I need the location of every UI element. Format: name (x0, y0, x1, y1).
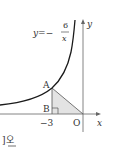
tick-minus-3: −3 (40, 118, 54, 128)
x-axis-arrow-icon (96, 112, 101, 116)
x-axis-label: x (97, 118, 102, 128)
point-a-label: A (42, 80, 50, 90)
point-b-label: B (43, 104, 50, 114)
y-axis-label: y (86, 19, 93, 29)
equation-denominator: x (62, 34, 67, 43)
equation-numerator: 6 (63, 21, 68, 30)
origin-label: O (73, 118, 80, 128)
footer-text: ]오 (2, 135, 14, 145)
equation-lhs: y=− (32, 28, 53, 38)
y-axis-arrow-icon (81, 19, 85, 24)
hyperbola-diagram: y=− 6 x y x O A B −3 ]오 (0, 0, 113, 149)
